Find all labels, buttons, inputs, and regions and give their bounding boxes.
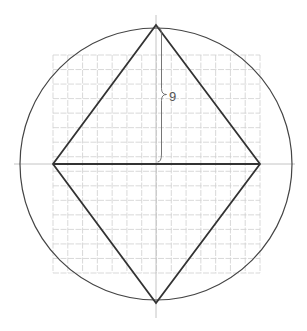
- brace-annotation: [158, 27, 167, 162]
- axes: [14, 15, 295, 318]
- rhombus-in-circle-diagram: 9: [0, 0, 307, 331]
- half-diagonal-label: 9: [169, 89, 176, 104]
